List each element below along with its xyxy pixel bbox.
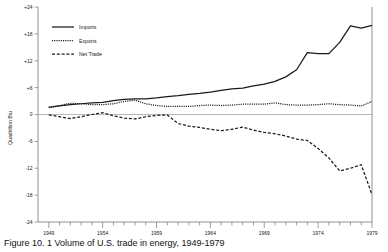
series-line-net-trade [49,113,372,195]
figure-caption: Figure 10. 1 Volume of U.S. trade in ene… [4,239,224,248]
y-tick-label-6: -12 [25,165,32,171]
legend-label-imports: Imports [79,24,97,30]
x-tick-label-1959: 1959 [151,230,162,236]
y-tick-label-8: -24 [25,219,32,225]
y-tick-label-4: 0 [30,111,33,117]
x-tick-label-1954: 1954 [97,230,108,236]
y-tick-label-1: +18 [24,31,33,37]
y-tick-label-3: +6 [27,85,33,91]
chart-figure: +24+18+12+60-6-12-18-2419491954195919641… [0,0,388,252]
series-line-imports [49,25,372,107]
figure-caption-clip: Figure 10. 1 Volume of U.S. trade in ene… [4,239,384,252]
y-tick-label-5: -6 [28,138,33,144]
chart-legend: ImportsExportsNet Trade [52,24,102,57]
energy-trade-line-chart: +24+18+12+60-6-12-18-2419491954195919641… [0,0,388,252]
y-axis-title: Quadrillion Btu [7,111,13,145]
x-tick-label-1979: 1979 [366,230,377,236]
legend-label-net-trade: Net Trade [79,51,102,57]
x-tick-label-1964: 1964 [205,230,216,236]
y-tick-label-7: -18 [25,192,32,198]
x-tick-label-1974: 1974 [313,230,324,236]
axes-layer: +24+18+12+60-6-12-18-2419491954195919641… [24,4,378,236]
x-tick-label-1949: 1949 [43,230,54,236]
y-tick-label-2: +12 [24,58,33,64]
legend-label-exports: Exports [79,38,97,44]
x-tick-label-1969: 1969 [259,230,270,236]
series-line-exports [49,100,372,107]
y-tick-label-0: +24 [24,4,33,10]
